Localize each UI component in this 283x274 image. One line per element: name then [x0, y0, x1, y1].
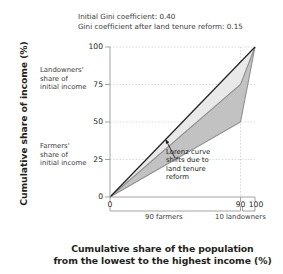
lorenz-shift-note-line2: shifts due to [166, 156, 224, 164]
x-axis-title-line1: Cumulative share of the population [42, 243, 283, 255]
lorenz-shift-note-line3: land tenure [166, 165, 224, 173]
x-tick-label-90: 90 [233, 200, 248, 209]
x-tick-label-0: 0 [104, 200, 116, 209]
y-tick-label-75: 75 [81, 80, 103, 89]
x-axis-title: Cumulative share of the population from … [42, 243, 283, 266]
y-tick-label-50: 50 [81, 117, 103, 126]
plot-canvas [0, 0, 283, 274]
landowners-bracket-label: 10 landowners [215, 213, 266, 221]
y-tick-marks [105, 47, 110, 197]
farmers-bracket-label: 90 farmers [145, 213, 183, 221]
y-tick-label-100: 100 [81, 42, 103, 51]
x-axis-title-line2: from the lowest to the highest income (%… [42, 255, 283, 267]
x-tick-label-100: 100 [247, 200, 265, 209]
lorenz-curve-chart: Initial Gini coefficient: 0.40 Gini coef… [0, 0, 283, 274]
y-tick-label-25: 25 [81, 155, 103, 164]
lorenz-shift-note-line1: Lorenz curve [166, 148, 224, 156]
lorenz-shift-note-line4: reform [166, 173, 224, 181]
lorenz-shift-note: Lorenz curve shifts due to land tenure r… [166, 148, 224, 182]
y-tick-label-0: 0 [81, 192, 103, 201]
